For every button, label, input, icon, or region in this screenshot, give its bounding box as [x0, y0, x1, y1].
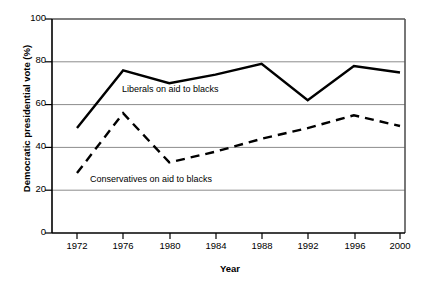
y-axis-ticks: [45, 19, 52, 233]
series-annotation-liberals: Liberals on aid to blacks: [122, 84, 219, 94]
plot-frame: [52, 19, 405, 233]
series-line-liberals: [77, 64, 400, 128]
plot-area: [0, 0, 425, 286]
series-line-conservatives: [77, 113, 400, 173]
x-axis-ticks: [77, 233, 400, 239]
chart-figure: Democratic presidential vote (%) Year 10…: [0, 0, 425, 286]
gridlines: [52, 62, 405, 190]
series-annotation-conservatives: Conservatives on aid to blacks: [90, 174, 212, 184]
